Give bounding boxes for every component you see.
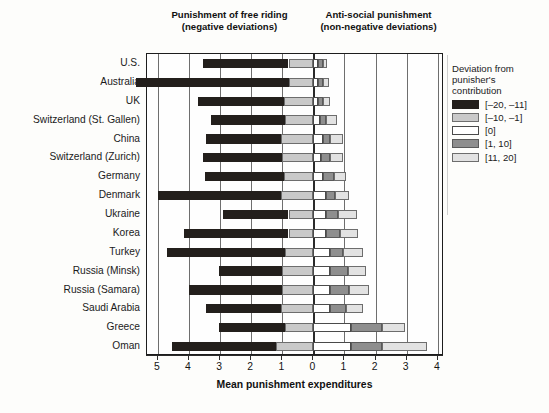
x-tick [281, 355, 282, 360]
bar-segment [323, 78, 329, 87]
bar-segment [343, 248, 363, 257]
bar-segment [348, 266, 367, 275]
bar-segment [326, 115, 337, 124]
bar-segment [349, 285, 369, 294]
x-tick [406, 355, 407, 360]
bar-segment [351, 323, 382, 332]
x-axis-label: Mean punishment expenditures [146, 379, 443, 390]
stacked-bar [147, 229, 442, 238]
chart-row: Ukraine [147, 205, 442, 224]
bar-segment [313, 304, 330, 313]
stacked-bar [147, 285, 442, 294]
legend-entry: [–10, –1] [452, 112, 547, 123]
legend-title-line1: Deviation from [452, 63, 547, 74]
bar-segment [330, 285, 349, 294]
category-label: Russia (Samara) [1, 281, 140, 300]
legend-divider [447, 55, 448, 215]
bar-segment [158, 191, 281, 200]
bar-segment [289, 210, 314, 219]
x-tick-label: 1 [271, 361, 291, 372]
chart-row: Australia [147, 73, 442, 92]
bar-segment [219, 323, 286, 332]
bar-segment [282, 266, 313, 275]
bar-segment [313, 172, 322, 181]
bar-segment [313, 153, 321, 162]
bar-segment [198, 97, 284, 106]
category-label: UK [1, 92, 140, 111]
category-label: Korea [1, 224, 140, 243]
bar-segment [330, 134, 342, 143]
bar-segment [340, 229, 359, 238]
bar-segment [330, 266, 347, 275]
bar-segment [189, 285, 282, 294]
x-tick-label: 4 [178, 361, 198, 372]
legend-label: [–10, –1] [485, 112, 522, 123]
bar-segment [313, 229, 325, 238]
category-label: Russia (Minsk) [1, 262, 140, 281]
bar-segment [223, 210, 288, 219]
legend-title-line3: contribution [452, 85, 547, 96]
chart-row: Switzerland (Zurich) [147, 148, 442, 167]
chart-row: Russia (Minsk) [147, 262, 442, 281]
bar-segment [136, 78, 288, 87]
column-header-left: Punishment of free riding (negative devi… [146, 9, 313, 32]
x-tick [437, 355, 438, 360]
legend-label: [1, 10] [485, 138, 512, 149]
bar-segment [313, 323, 350, 332]
stacked-bar [147, 210, 442, 219]
bar-segment [282, 285, 313, 294]
x-tick-label: 3 [396, 361, 416, 372]
category-label: Saudi Arabia [1, 299, 140, 318]
bar-segment [289, 78, 314, 87]
x-tick-label: 2 [240, 361, 260, 372]
legend-swatch [452, 139, 479, 148]
plot-area: U.S.AustraliaUKSwitzerland (St. Gallen)C… [146, 53, 443, 355]
bar-segment [335, 191, 349, 200]
legend-entry: [–20, –11] [452, 99, 547, 110]
x-tick [188, 355, 189, 360]
bar-segment [313, 134, 322, 143]
category-label: Switzerland (Zurich) [1, 148, 140, 167]
stacked-bar [147, 115, 442, 124]
category-label: Denmark [1, 186, 140, 205]
legend-label: [–20, –11] [485, 99, 527, 110]
bar-segment [313, 210, 325, 219]
x-axis-line [146, 355, 443, 356]
column-header-left-line2: (negative deviations) [146, 21, 313, 33]
bar-segment [346, 304, 363, 313]
bar-segment [206, 304, 281, 313]
x-tick [157, 355, 158, 360]
x-tick-label: 1 [333, 361, 353, 372]
column-header-right-line2: (non-negative deviations) [313, 21, 444, 33]
chart-row: Oman [147, 337, 442, 356]
legend-swatch [452, 153, 479, 162]
bar-segment [276, 342, 313, 351]
category-label: Greece [1, 318, 140, 337]
bar-segment [205, 172, 284, 181]
x-tick [250, 355, 251, 360]
bar-segment [285, 115, 313, 124]
category-label: Ukraine [1, 205, 140, 224]
chart-row: Korea [147, 224, 442, 243]
column-header-right-line1: Anti-social punishment [313, 9, 444, 21]
chart-row: Russia (Samara) [147, 281, 442, 300]
bar-segment [326, 210, 338, 219]
legend-entry: [1, 10] [452, 138, 547, 149]
bar-segment [330, 153, 342, 162]
bar-segment [321, 153, 330, 162]
bar-segment [206, 134, 281, 143]
category-label: China [1, 130, 140, 149]
x-tick [312, 355, 313, 360]
stacked-bar [147, 248, 442, 257]
stacked-bar [147, 78, 442, 87]
stacked-bar [147, 323, 442, 332]
stacked-bar [147, 59, 442, 68]
legend-entry: [11, 20] [452, 152, 547, 163]
bar-segment [313, 285, 330, 294]
bar-segment [282, 153, 313, 162]
legend: Deviation from punisher's contribution [… [452, 63, 547, 163]
chart-row: U.S. [147, 54, 442, 73]
column-header-left-line1: Punishment of free riding [146, 9, 313, 21]
chart-row: Greece [147, 318, 442, 337]
legend-title: Deviation from punisher's contribution [452, 63, 547, 97]
